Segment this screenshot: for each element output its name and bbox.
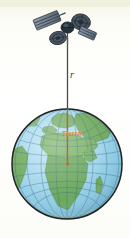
globe-contents xyxy=(8,109,122,219)
satellite-earth-figure: r Tierra xyxy=(0,0,130,238)
earth-center-dot xyxy=(66,163,69,166)
radius-label: r xyxy=(70,70,74,80)
earth-center-label: Tierra xyxy=(62,130,82,138)
earth-globe xyxy=(8,109,122,219)
satellite xyxy=(33,8,97,46)
figure-svg xyxy=(0,0,130,238)
satellite-body xyxy=(61,22,74,33)
